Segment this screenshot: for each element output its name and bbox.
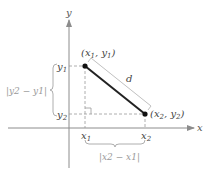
vertical-distance-label: |y2 − y1| [6,86,47,97]
horizontal-distance-label: |x2 − x1| [99,152,140,163]
tick-y2: y2 [56,109,68,122]
d-bracket [88,58,151,110]
x-axis-label: x [197,122,203,133]
point-2 [142,111,147,116]
point-1 [82,63,87,68]
point-2-label: (x2, y2) [150,108,185,121]
vertical-brace [50,64,57,116]
point-1-label: (x1, y1) [81,47,116,60]
tick-x1: x1 [81,130,91,143]
tick-y1: y1 [56,61,67,74]
right-angle-marker [85,108,91,114]
distance-diagram: x y d (x1, y1) (x2, y2) y1 y2 x1 x2 |y2 … [0,0,206,172]
segment-d [85,66,145,114]
y-axis-label: y [65,7,72,18]
horizontal-brace [85,140,145,147]
tick-x2: x2 [141,130,152,143]
d-label: d [126,73,132,84]
